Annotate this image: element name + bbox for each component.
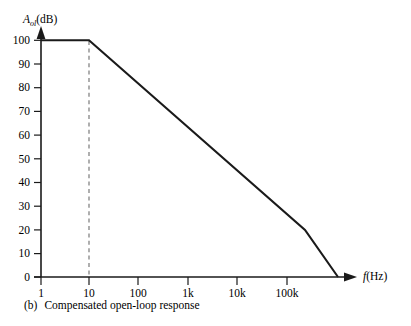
y-axis-arrow-icon <box>37 26 46 39</box>
x-axis-arrow-icon <box>344 272 357 281</box>
x-axis-title: f(Hz) <box>363 271 387 283</box>
chart-canvas <box>0 0 411 326</box>
x-tick-label-1k: 1k <box>168 288 208 300</box>
y-tick-label-40: 40 <box>0 177 30 189</box>
x-tick-label-100: 100 <box>118 288 158 300</box>
y-tick-label-60: 60 <box>0 130 30 142</box>
x-axis <box>34 272 357 281</box>
y-tick-label-30: 30 <box>0 201 30 213</box>
y-tick-label-90: 90 <box>0 59 30 71</box>
x-axis-ticks <box>41 277 287 285</box>
y-tick-label-80: 80 <box>0 82 30 94</box>
y-tick-label-100: 100 <box>0 35 30 47</box>
y-tick-label-20: 20 <box>0 225 30 237</box>
y-tick-label-10: 10 <box>0 248 30 260</box>
y-axis-ticks <box>34 40 41 277</box>
x-tick-label-10k: 10k <box>217 288 257 300</box>
y-tick-label-0: 0 <box>0 272 30 284</box>
figure-caption: (b)Compensated open-loop response <box>24 300 200 312</box>
y-axis-title: Aol(dB) <box>23 14 57 26</box>
open-loop-gain-curve <box>41 40 338 277</box>
x-tick-label-100k: 100k <box>267 288 307 300</box>
y-tick-label-50: 50 <box>0 154 30 166</box>
figure-compensated-open-loop-response: Aol(dB) f(Hz) 100 90 80 70 60 50 40 30 2… <box>0 0 411 326</box>
figure-caption-text: Compensated open-loop response <box>44 299 199 311</box>
y-tick-label-70: 70 <box>0 106 30 118</box>
x-tick-label-1: 1 <box>21 288 61 300</box>
x-tick-label-10: 10 <box>69 288 109 300</box>
figure-caption-tag: (b) <box>24 299 37 311</box>
